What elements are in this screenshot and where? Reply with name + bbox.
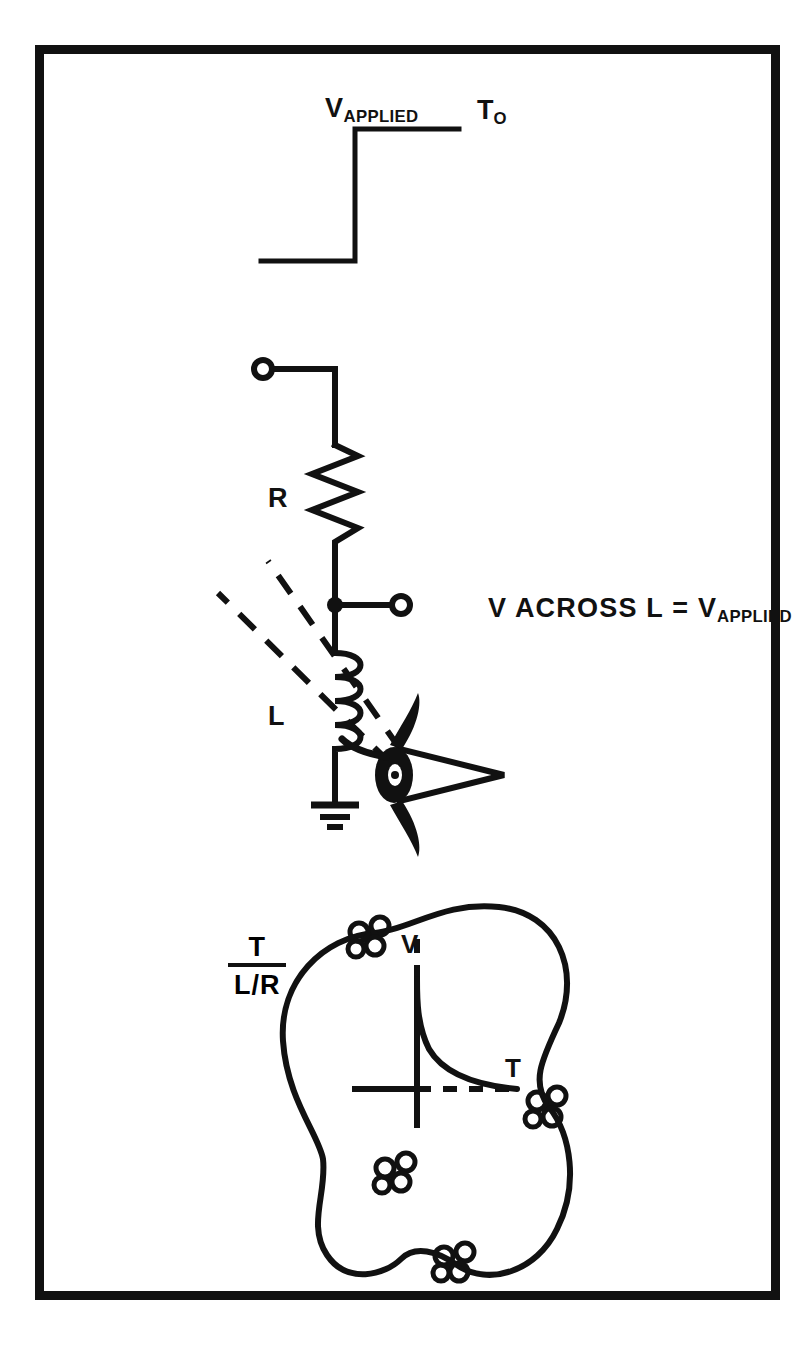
flower-decorations bbox=[348, 917, 566, 1281]
fraction-numerator: T bbox=[228, 933, 286, 963]
input-wire bbox=[272, 369, 335, 445]
plot-t-label: T bbox=[505, 1053, 521, 1084]
observer-arm-right bbox=[390, 801, 419, 857]
output-terminal[interactable] bbox=[392, 596, 410, 614]
decay-curve bbox=[417, 979, 517, 1089]
voltage-step-trace bbox=[261, 129, 459, 261]
figure-page: VAPPLIED TO bbox=[0, 0, 811, 1347]
flower-icon bbox=[525, 1087, 566, 1127]
observer-body bbox=[400, 749, 504, 801]
t-zero-subscript: O bbox=[493, 109, 506, 128]
relation-subscript: APPLIED bbox=[717, 607, 792, 626]
flower-icon bbox=[348, 917, 389, 957]
time-constant-fraction: T L/R bbox=[228, 933, 286, 1000]
fraction-denominator-slash: / bbox=[250, 970, 260, 1000]
figure-border: VAPPLIED TO bbox=[35, 45, 780, 1300]
relation-text: V ACROSS L = V bbox=[488, 593, 717, 623]
relation-annotation: V ACROSS L = VAPPLIED bbox=[488, 593, 792, 624]
t-zero-symbol: T bbox=[477, 95, 494, 125]
fraction-denominator-right: R bbox=[260, 970, 280, 1000]
plot-v-label: V bbox=[401, 929, 418, 960]
flower-icon bbox=[433, 1243, 474, 1281]
resistor-label: R bbox=[268, 483, 288, 514]
observer-arm-left bbox=[390, 693, 419, 749]
input-terminal[interactable] bbox=[254, 360, 272, 378]
fraction-denominator: L/R bbox=[228, 969, 286, 999]
observer-tail bbox=[342, 739, 386, 757]
fraction-bar bbox=[228, 963, 286, 967]
t-zero-label: TO bbox=[477, 95, 507, 126]
resistor-symbol bbox=[312, 445, 358, 585]
v-applied-subscript: APPLIED bbox=[343, 107, 418, 126]
fraction-denominator-left: L bbox=[234, 970, 251, 1000]
v-applied-label: VAPPLIED bbox=[325, 93, 418, 124]
flower-icon bbox=[374, 1153, 415, 1193]
v-applied-symbol: V bbox=[325, 93, 344, 123]
drawing-canvas: VAPPLIED TO bbox=[43, 53, 773, 1293]
